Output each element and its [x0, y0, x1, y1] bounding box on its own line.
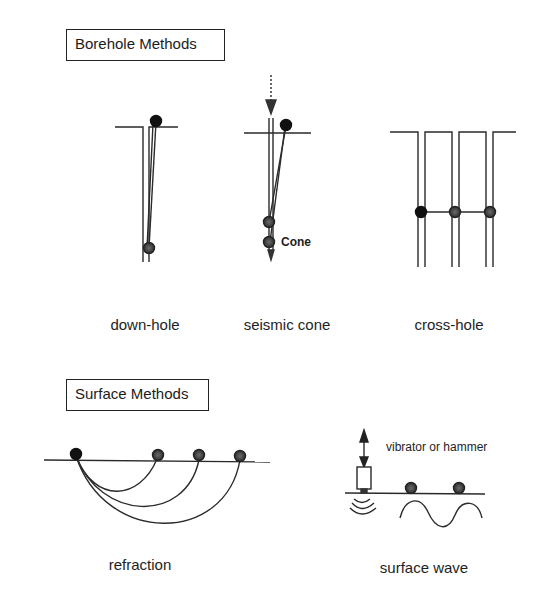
cross-hole-caption: cross-hole: [414, 316, 483, 333]
source-icon: [151, 116, 162, 127]
push-arrow-icon: [266, 100, 276, 114]
source-icon: [416, 207, 427, 218]
receiver-upper-icon: [264, 217, 275, 228]
seismic-cone-caption: seismic cone: [244, 316, 331, 333]
cross-hole-panel: [390, 132, 516, 267]
source-icon: [71, 449, 82, 460]
receiver-2-icon: [454, 483, 465, 494]
refraction-panel: [44, 449, 270, 524]
sine-wave-icon: [400, 501, 482, 527]
ground-surface-right: [149, 127, 178, 262]
source-icon: [281, 120, 292, 131]
receiver-3-icon: [235, 451, 246, 462]
down-hole-caption: down-hole: [110, 316, 179, 333]
receiver-1-icon: [153, 450, 164, 461]
ground-surface: [390, 132, 418, 267]
down-hole-panel: [115, 116, 178, 263]
vibration-arrow-up-icon: [360, 430, 368, 442]
receiver-lower-icon: [264, 237, 275, 248]
vibrator-or-hammer-label: vibrator or hammer: [386, 440, 487, 454]
cone-label: Cone: [281, 235, 311, 249]
emitted-waves-icon: [354, 499, 370, 503]
diagram-canvas: [0, 0, 534, 609]
ground-surface-left: [115, 127, 143, 262]
receiver-icon: [144, 243, 155, 254]
receiver-1-icon: [406, 483, 417, 494]
receiver-1-icon: [450, 207, 461, 218]
ray-path-3: [76, 456, 240, 523]
receiver-2-icon: [194, 450, 205, 461]
cone-tip-icon: [268, 250, 274, 260]
refraction-caption: refraction: [109, 556, 172, 573]
seismic-methods-diagram: Borehole Methods Surface Methods: [0, 0, 534, 609]
vibrator-box-icon: [357, 467, 371, 489]
seismic-cone-panel: [244, 75, 311, 260]
ray-path-2: [76, 456, 199, 506]
receiver-2-icon: [485, 207, 496, 218]
vibration-arrow-down-icon: [360, 457, 368, 467]
surface-wave-caption: surface wave: [380, 559, 468, 576]
